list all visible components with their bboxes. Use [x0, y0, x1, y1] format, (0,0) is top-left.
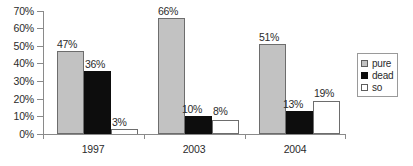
bar-dead-1997	[84, 71, 111, 134]
x-axis-tick	[345, 134, 346, 139]
x-axis-tick	[245, 134, 246, 139]
legend-item-so[interactable]: so	[361, 81, 393, 93]
y-axis-tick	[37, 46, 43, 47]
bar-pure-2003	[158, 18, 185, 134]
bar-label-so-1997: 3%	[112, 117, 127, 128]
legend-swatch-so-icon	[361, 84, 368, 91]
y-axis-line	[43, 11, 44, 134]
chart-legend: pure dead so	[357, 53, 398, 97]
y-axis-tick	[37, 116, 43, 117]
bar-pure-2004	[259, 44, 286, 134]
legend-swatch-dead-icon	[361, 72, 368, 79]
bar-dead-2004	[286, 111, 313, 134]
bar-so-2004	[313, 101, 340, 134]
x-axis-tick	[144, 134, 145, 139]
y-axis-tick-label: 50%	[0, 41, 34, 51]
bar-label-pure-2003: 66%	[158, 6, 178, 17]
legend-swatch-pure-icon	[361, 60, 368, 67]
bar-label-pure-1997: 47%	[57, 39, 77, 50]
x-axis-label-2003: 2003	[154, 143, 234, 155]
legend-label-dead: dead	[372, 70, 393, 81]
bar-chart: 70% 60% 50% 40% 30% 20% 10% 0% 47% 36% 3…	[0, 0, 413, 166]
y-axis-tick-label: 60%	[0, 23, 34, 33]
y-axis-tick	[37, 63, 43, 64]
legend-label-so: so	[372, 82, 382, 93]
y-axis-tick-label: 0%	[0, 129, 34, 139]
y-axis-tick-label: 40%	[0, 58, 34, 68]
bar-pure-1997	[57, 51, 84, 134]
y-axis-tick	[37, 11, 43, 12]
bar-label-so-2004: 19%	[314, 88, 334, 99]
y-axis-tick-label: 20%	[0, 94, 34, 104]
y-axis-tick-label: 70%	[0, 6, 34, 16]
y-axis-tick	[37, 28, 43, 29]
y-axis-tick	[37, 81, 43, 82]
bar-label-pure-2004: 51%	[259, 32, 279, 43]
y-axis-tick-label: 10%	[0, 111, 34, 121]
y-axis-tick-label: 30%	[0, 76, 34, 86]
x-axis-label-1997: 1997	[53, 143, 133, 155]
bar-dead-2003	[185, 116, 212, 134]
y-axis-tick	[37, 99, 43, 100]
bar-label-dead-1997: 36%	[85, 59, 105, 70]
bar-label-so-2003: 8%	[213, 106, 228, 117]
x-axis-tick	[43, 134, 44, 139]
bar-label-dead-2003: 10%	[182, 104, 202, 115]
legend-label-pure: pure	[372, 58, 391, 69]
x-axis-line	[43, 134, 346, 135]
bar-so-2003	[212, 120, 239, 134]
legend-item-dead[interactable]: dead	[361, 69, 393, 81]
x-axis-label-2004: 2004	[255, 143, 335, 155]
bar-label-dead-2004: 13%	[283, 99, 303, 110]
legend-item-pure[interactable]: pure	[361, 57, 393, 69]
